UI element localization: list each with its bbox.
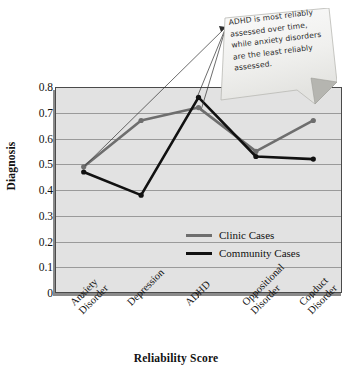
legend-item: Community Cases	[186, 244, 300, 262]
data-point	[139, 193, 144, 198]
annotation-text: ADHD is most reliably assessed over time…	[228, 5, 332, 74]
data-point	[196, 105, 201, 110]
chart-figure: 0.80.70.60.50.40.30.20.10 Diagnosis Anxi…	[0, 0, 352, 374]
data-point	[139, 118, 144, 123]
legend-label: Clinic Cases	[219, 229, 274, 241]
legend-label: Community Cases	[219, 247, 300, 259]
data-point	[196, 95, 201, 100]
data-point	[311, 157, 316, 162]
legend-item: Clinic Cases	[186, 226, 300, 244]
annotation-sticky-note: ADHD is most reliably assessed over time…	[219, 8, 337, 106]
data-point	[81, 169, 86, 174]
series-line-community-cases	[84, 97, 314, 195]
data-point	[311, 118, 316, 123]
data-point	[253, 154, 258, 159]
legend-swatch	[186, 252, 212, 255]
chart-legend: Clinic CasesCommunity Cases	[186, 226, 300, 262]
legend-swatch	[186, 234, 212, 237]
